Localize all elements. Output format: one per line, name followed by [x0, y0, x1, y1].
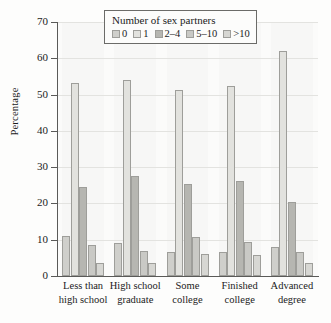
y-tick-label: 10: [0, 234, 48, 245]
bar: [62, 236, 70, 276]
bar: [279, 51, 287, 276]
legend: Number of sex partners 012–45–10>10: [104, 10, 257, 44]
bar: [123, 80, 131, 276]
legend-swatch-icon: [112, 30, 120, 38]
bar: [192, 237, 200, 276]
y-tick-mark: [51, 240, 57, 241]
legend-label: 5–10: [196, 28, 217, 39]
bar: [288, 202, 296, 276]
y-tick-mark: [51, 95, 57, 96]
y-tick-label: 20: [0, 197, 48, 208]
legend-item: 5–10: [186, 28, 217, 39]
legend-label: >10: [233, 28, 249, 39]
bar: [244, 242, 252, 276]
bar: [253, 255, 261, 276]
y-tick-mark: [51, 131, 57, 132]
y-tick-label: 0: [0, 270, 48, 281]
legend-swatch-icon: [186, 30, 194, 38]
y-tick-mark: [51, 276, 57, 277]
bar: [167, 252, 175, 276]
y-tick-label: 60: [0, 52, 48, 63]
legend-swatch-icon: [155, 30, 163, 38]
bar: [131, 176, 139, 276]
legend-item: 0: [112, 28, 127, 39]
bar-chart-figure: 010203040506070 Percentage Less thanhigh…: [0, 0, 331, 323]
x-axis-line: [57, 276, 319, 277]
y-tick-label: 50: [0, 89, 48, 100]
y-tick-label: 40: [0, 125, 48, 136]
legend-swatch-icon: [223, 30, 231, 38]
x-axis-label-line: Advanced: [260, 279, 324, 293]
bar: [148, 263, 156, 276]
y-tick-label: 70: [0, 16, 48, 27]
y-tick-mark: [51, 167, 57, 168]
bar: [184, 184, 192, 276]
bar: [88, 245, 96, 276]
bar: [219, 252, 227, 276]
bar: [227, 86, 235, 276]
y-axis-title: Percentage: [9, 62, 20, 162]
legend-title: Number of sex partners: [112, 14, 250, 27]
bar: [114, 243, 122, 276]
bar: [296, 252, 304, 276]
x-axis-labels: Less thanhigh schoolHigh schoolgraduateS…: [57, 279, 318, 321]
bar: [96, 263, 104, 276]
legend-item: 2–4: [155, 28, 181, 39]
y-axis-line: [57, 22, 58, 277]
bar: [140, 251, 148, 276]
bar: [305, 263, 313, 276]
bar: [271, 247, 279, 276]
legend-label: 1: [143, 28, 148, 39]
bar: [175, 90, 183, 276]
y-tick-mark: [51, 22, 57, 23]
legend-label: 2–4: [165, 28, 181, 39]
bar: [236, 181, 244, 276]
legend-item: >10: [223, 28, 249, 39]
legend-item: 1: [133, 28, 148, 39]
x-axis-label: Advanceddegree: [260, 279, 324, 306]
bar: [71, 83, 79, 276]
y-tick-label: 30: [0, 161, 48, 172]
bar: [79, 187, 87, 276]
x-axis-label-line: degree: [260, 293, 324, 307]
legend-items: 012–45–10>10: [112, 28, 250, 39]
bar: [201, 254, 209, 276]
y-tick-mark: [51, 203, 57, 204]
y-tick-mark: [51, 58, 57, 59]
legend-label: 0: [122, 28, 127, 39]
legend-swatch-icon: [133, 30, 141, 38]
